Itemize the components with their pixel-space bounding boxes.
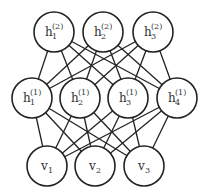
node-label: v (40, 159, 48, 173)
node-subscript: 1 (52, 32, 57, 41)
node-subscript: 2 (96, 166, 101, 175)
node-label: v (137, 159, 145, 173)
node-superscript: (2) (101, 22, 112, 31)
node-h2_1: h1(2) (34, 12, 74, 52)
node-superscript: (2) (52, 22, 63, 31)
node-subscript: 3 (145, 166, 150, 175)
node-h1_2: h2(1) (60, 78, 100, 118)
node-h2_2: h2(2) (83, 12, 123, 52)
node-superscript: (1) (78, 88, 89, 97)
node-h1_4: h4(1) (157, 78, 197, 118)
node-h1_1: h1(1) (12, 78, 52, 118)
node-h1_3: h3(1) (108, 78, 148, 118)
node-label: v (88, 159, 96, 173)
node-subscript: 2 (78, 98, 83, 107)
node-v_3: v3 (124, 146, 164, 186)
nodes: h1(2)h2(2)h3(2)h1(1)h2(1)h3(1)h4(1)v1v2v… (12, 12, 197, 186)
node-h2_3: h3(2) (133, 12, 173, 52)
node-subscript: 3 (126, 98, 131, 107)
node-v_1: v1 (27, 146, 67, 186)
node-v_2: v2 (75, 146, 115, 186)
node-superscript: (2) (151, 22, 162, 31)
network-diagram: h1(2)h2(2)h3(2)h1(1)h2(1)h3(1)h4(1)v1v2v… (0, 0, 209, 194)
node-superscript: (1) (126, 88, 137, 97)
node-superscript: (1) (30, 88, 41, 97)
node-subscript: 1 (30, 98, 35, 107)
node-superscript: (1) (175, 88, 186, 97)
node-subscript: 2 (101, 32, 106, 41)
node-subscript: 3 (151, 32, 156, 41)
node-subscript: 1 (48, 166, 53, 175)
node-subscript: 4 (175, 98, 180, 107)
